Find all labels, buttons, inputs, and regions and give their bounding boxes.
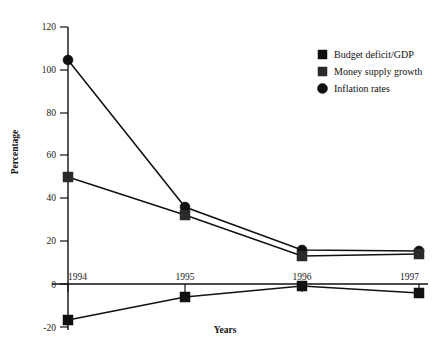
data-point: [414, 288, 424, 298]
y-tick-label: 120: [42, 22, 57, 32]
series-line-money-supply-growth: [68, 177, 419, 256]
x-axis-title: Years: [214, 325, 237, 335]
y-tick-label: 40: [47, 193, 57, 203]
data-point: [414, 249, 424, 259]
data-point: [297, 251, 307, 261]
x-tick-label: 1995: [176, 272, 195, 282]
data-point: [63, 172, 73, 182]
x-tick-label: 1997: [400, 272, 419, 282]
x-tick-label: 1994: [68, 272, 87, 282]
y-tick-label: 80: [47, 108, 57, 118]
y-tick-label: 20: [47, 236, 57, 246]
y-tick-label: 60: [47, 150, 57, 160]
data-point: [180, 292, 190, 302]
y-axis-tick-labels: 120 100 80 60 40 20 0 -20: [42, 22, 57, 333]
series-line-budget-deficit-gdp: [68, 286, 419, 320]
legend-label-money-supply-growth: Money supply growth: [334, 66, 422, 77]
series-markers-money-supply-growth: [63, 172, 424, 261]
data-point: [63, 315, 73, 325]
y-tick-label: 0: [51, 280, 56, 290]
x-axis-tick-labels: 1994 1995 1996 1997: [68, 272, 419, 282]
legend-label-budget-deficit-gdp: Budget deficit/GDP: [334, 49, 414, 60]
y-tick-label: -20: [43, 323, 56, 333]
legend-label-inflation-rates: Inflation rates: [334, 83, 390, 94]
data-point: [63, 55, 73, 65]
line-chart: 120 100 80 60 40 20 0 -20 1994 1995 1996…: [0, 0, 437, 347]
legend-marker-square-money-supply-growth: [318, 67, 327, 76]
series-markers-budget-deficit-gdp: [63, 281, 424, 325]
legend-marker-square-budget-deficit-gdp: [318, 50, 327, 59]
chart-container: 120 100 80 60 40 20 0 -20 1994 1995 1996…: [0, 0, 437, 347]
chart-legend: Budget deficit/GDP Money supply growth I…: [318, 49, 423, 94]
data-point: [180, 210, 190, 220]
y-axis-title: Percentage: [10, 130, 20, 175]
x-tick-label: 1996: [293, 272, 312, 282]
data-point: [297, 281, 307, 291]
legend-marker-circle-inflation-rates: [318, 84, 328, 94]
y-tick-label: 100: [42, 65, 57, 75]
